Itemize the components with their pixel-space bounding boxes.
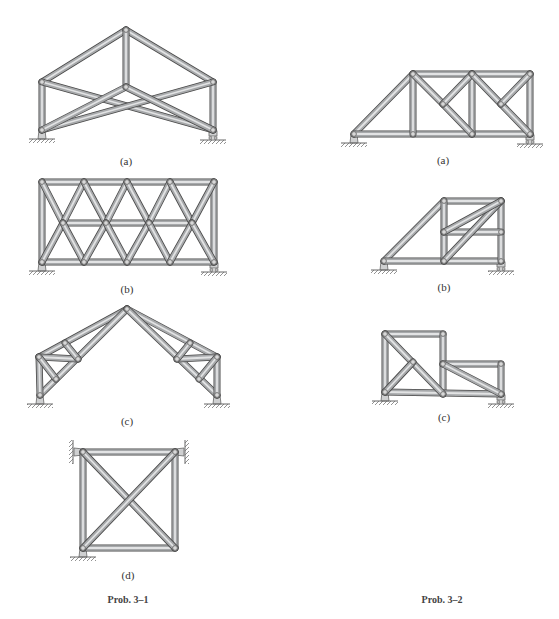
pin-joint-icon (411, 360, 416, 365)
pin-joint-icon (125, 307, 130, 312)
pin-joint-icon (82, 260, 87, 265)
pin-joint-icon (499, 392, 504, 397)
pin-joint-icon (104, 221, 109, 226)
pin-joint-icon (40, 128, 45, 133)
label-prob32-a: (a) (437, 154, 449, 166)
pin-joint-icon (197, 377, 202, 382)
pin-joint-icon (215, 355, 220, 360)
label-prob31-d: (d) (122, 569, 135, 581)
pin-joint-icon (411, 132, 416, 137)
pin-joint-icon (499, 199, 504, 204)
pin-joint-icon (442, 199, 447, 204)
label-prob31-b: (b) (121, 283, 134, 295)
pin-joint-icon (212, 180, 217, 185)
pin-joint-icon (124, 85, 129, 90)
pin-joint-icon (441, 362, 446, 367)
pin-joint-icon (383, 332, 388, 337)
pin-joint-icon (212, 260, 217, 265)
pin-joint-icon (470, 72, 475, 77)
pin-joint-icon (40, 180, 45, 185)
pin-joint-icon (499, 362, 504, 367)
label-prob32-b: (b) (438, 281, 451, 293)
pin-joint-icon (499, 259, 504, 264)
pin-joint-icon (40, 260, 45, 265)
pin-joint-icon (211, 80, 216, 85)
pin-joint-icon (528, 132, 533, 137)
pin-joint-icon (442, 259, 447, 264)
pin-joint-icon (38, 393, 43, 398)
pin-joint-icon (125, 260, 130, 265)
prob-3-1-truss-4 (83, 452, 175, 548)
pin-joint-icon (63, 341, 68, 346)
pin-joint-icon (215, 393, 220, 398)
pin-joint-icon (470, 132, 475, 137)
pin-joint-icon (168, 180, 173, 185)
pin-joint-icon (352, 132, 357, 137)
pin-joint-icon (125, 180, 130, 185)
pin-joint-icon (188, 341, 193, 346)
pin-joint-icon (190, 221, 195, 226)
pin-joint-icon (441, 392, 446, 397)
prob-3-1-truss-1 (42, 30, 213, 130)
joints-layer (37, 28, 533, 551)
supports-layer (27, 128, 543, 561)
pin-joint-icon (528, 72, 533, 77)
label-prob32-c: (c) (438, 411, 450, 423)
pin-joint-icon (82, 180, 87, 185)
pin-joint-icon (442, 230, 447, 235)
pin-joint-icon (147, 221, 152, 226)
caption-prob-3-2: Prob. 3–2 (422, 594, 463, 605)
pin-joint-icon (168, 260, 173, 265)
pin-joint-icon (441, 332, 446, 337)
pin-joint-icon (37, 355, 42, 360)
pin-joint-icon (81, 450, 86, 455)
pin-joint-icon (499, 230, 504, 235)
pin-joint-icon (54, 377, 59, 382)
pin-joint-icon (40, 80, 45, 85)
pin-joint-icon (173, 546, 178, 551)
prob-3-1-truss-2 (42, 182, 214, 262)
truss-figure (0, 0, 559, 619)
pin-joint-icon (411, 72, 416, 77)
pin-joint-icon (124, 28, 129, 33)
label-prob31-a: (a) (120, 155, 132, 167)
pin-joint-icon (61, 221, 66, 226)
pin-joint-icon (173, 450, 178, 455)
pin-joint-icon (76, 357, 81, 362)
pin-joint-icon (499, 102, 504, 107)
pin-joint-icon (441, 102, 446, 107)
pin-joint-icon (81, 546, 86, 551)
prob-3-1-truss-3 (39, 309, 217, 395)
pin-joint-icon (211, 128, 216, 133)
members-layer (39, 30, 530, 548)
label-prob31-c: (c) (121, 415, 133, 427)
caption-prob-3-1: Prob. 3–1 (108, 594, 149, 605)
pin-joint-icon (383, 390, 388, 395)
pin-joint-icon (175, 357, 180, 362)
pin-joint-icon (382, 259, 387, 264)
